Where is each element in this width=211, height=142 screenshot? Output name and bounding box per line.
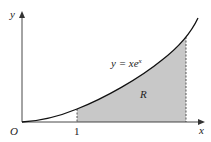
figure-canvas: y x O 1 R y = xex (0, 0, 211, 142)
equation-base: y = xe (110, 57, 139, 69)
equation-exponent: x (138, 57, 143, 65)
x-axis-label: x (198, 124, 204, 136)
shaded-region-r (77, 37, 186, 122)
y-axis-label: y (9, 8, 15, 20)
origin-label: O (10, 125, 18, 137)
y-axis-arrow-icon (19, 11, 25, 18)
equation-label: y = xex (110, 57, 143, 69)
x-tick-label-1: 1 (74, 125, 80, 137)
region-label: R (139, 88, 147, 100)
